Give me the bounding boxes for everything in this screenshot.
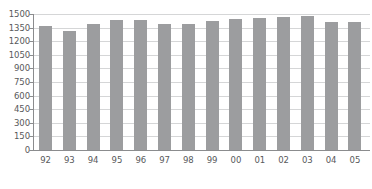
- bar: [229, 19, 242, 150]
- gridline: [33, 109, 370, 110]
- y-tick-mark: [29, 28, 34, 29]
- gridline: [33, 28, 370, 29]
- bar: [253, 18, 266, 150]
- bar: [39, 26, 52, 150]
- y-tick-label: 300: [0, 119, 30, 128]
- bar: [63, 31, 76, 150]
- bar: [301, 16, 314, 150]
- y-tick-label: 1200: [0, 37, 30, 46]
- x-axis-line: [33, 150, 370, 151]
- bar: [206, 21, 219, 150]
- y-tick-mark: [29, 109, 34, 110]
- y-tick-mark: [29, 136, 34, 137]
- y-tick-mark: [29, 41, 34, 42]
- y-tick-mark: [29, 150, 34, 151]
- x-tick-label: 03: [295, 156, 319, 165]
- bar: [348, 22, 361, 150]
- gridline: [33, 136, 370, 137]
- y-tick-label: 150: [0, 132, 30, 141]
- x-tick-label: 98: [176, 156, 200, 165]
- x-tick-label: 99: [200, 156, 224, 165]
- gridline: [33, 82, 370, 83]
- y-tick-label: 0: [0, 146, 30, 155]
- x-tick-label: 97: [153, 156, 177, 165]
- y-tick-label: 1350: [0, 24, 30, 33]
- x-tick-label: 95: [105, 156, 129, 165]
- y-axis-labels: 01503004506007509001050120013501500: [0, 0, 30, 189]
- y-tick-mark: [29, 96, 34, 97]
- x-tick-label: 92: [34, 156, 58, 165]
- x-tick-label: 93: [57, 156, 81, 165]
- gridline: [33, 14, 370, 15]
- x-tick-label: 05: [343, 156, 367, 165]
- plot-area: [33, 14, 370, 150]
- y-tick-mark: [29, 82, 34, 83]
- y-tick-label: 600: [0, 92, 30, 101]
- gridline: [33, 41, 370, 42]
- bar: [87, 24, 100, 150]
- x-tick-label: 94: [81, 156, 105, 165]
- gridline: [33, 68, 370, 69]
- x-tick-label: 02: [272, 156, 296, 165]
- x-tick-label: 96: [129, 156, 153, 165]
- bar: [277, 17, 290, 150]
- y-tick-label: 1500: [0, 10, 30, 19]
- bar: [158, 24, 171, 151]
- bar: [110, 20, 123, 150]
- y-tick-mark: [29, 55, 34, 56]
- y-tick-label: 450: [0, 105, 30, 114]
- x-tick-label: 00: [224, 156, 248, 165]
- y-tick-mark: [29, 68, 34, 69]
- x-tick-label: 01: [248, 156, 272, 165]
- bar-chart: 01503004506007509001050120013501500 9293…: [0, 0, 372, 189]
- x-tick-label: 04: [319, 156, 343, 165]
- y-tick-label: 900: [0, 64, 30, 73]
- y-tick-mark: [29, 123, 34, 124]
- gridline: [33, 55, 370, 56]
- gridline: [33, 96, 370, 97]
- y-tick-label: 1050: [0, 51, 30, 60]
- bar: [325, 22, 338, 150]
- y-tick-label: 750: [0, 78, 30, 87]
- bar: [182, 24, 195, 150]
- y-tick-mark: [29, 14, 34, 15]
- gridline: [33, 123, 370, 124]
- bar: [134, 20, 147, 150]
